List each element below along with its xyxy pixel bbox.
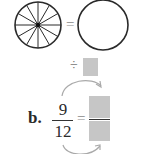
equals-sign-b: = [77, 110, 85, 127]
divided-circle [15, 2, 61, 48]
answer-denominator-box [89, 121, 110, 141]
answer-fraction-bar [89, 119, 110, 120]
divisor-box [83, 58, 98, 76]
curved-arrow-top-icon [62, 81, 101, 96]
answer-numerator-box [89, 96, 110, 118]
fraction-bar [52, 120, 73, 121]
fraction-denominator: 12 [52, 122, 74, 142]
equals-sign-top: = [66, 16, 74, 33]
part-b-label: b. [28, 108, 42, 128]
curved-arrow-bottom-icon [63, 145, 100, 154]
blank-circle [78, 0, 128, 50]
divide-icon: ÷ [70, 58, 78, 74]
fraction-numerator: 9 [52, 100, 74, 120]
